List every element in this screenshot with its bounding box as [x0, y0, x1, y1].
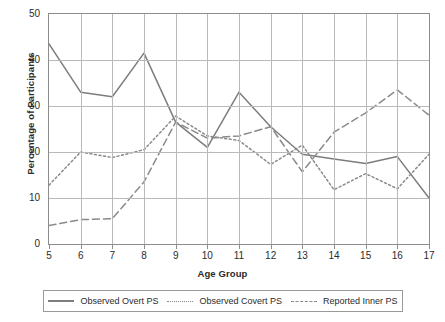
x-tick-label: 14 [322, 251, 346, 261]
x-tick-label: 7 [100, 251, 124, 261]
legend-swatch-solid-icon [48, 300, 74, 302]
x-tick-mark [144, 245, 145, 249]
legend-swatch-dashed-icon [291, 301, 317, 302]
x-tick-label: 17 [417, 251, 441, 261]
x-tick-label: 8 [132, 251, 156, 261]
x-tick-label: 9 [164, 251, 188, 261]
x-tick-mark [302, 245, 303, 249]
x-tick-label: 15 [354, 251, 378, 261]
x-tick-mark [271, 245, 272, 249]
x-tick-label: 12 [259, 251, 283, 261]
x-tick-label: 10 [195, 251, 219, 261]
x-tick-mark [112, 245, 113, 249]
x-tick-mark [429, 245, 430, 249]
x-tick-label: 13 [290, 251, 314, 261]
gridline-vertical [302, 14, 303, 244]
gridline-vertical [81, 14, 82, 244]
x-tick-label: 6 [69, 251, 93, 261]
x-tick-mark [239, 245, 240, 249]
legend-label: Observed Covert PS [199, 296, 282, 306]
x-tick-label: 11 [227, 251, 251, 261]
chart-legend: Observed Overt PS Observed Covert PS Rep… [43, 290, 403, 312]
x-tick-mark [366, 245, 367, 249]
chart-figure: Percentage of Participants 50403020100 5… [0, 0, 445, 322]
x-tick-mark [176, 245, 177, 249]
x-tick-mark [334, 245, 335, 249]
x-tick-mark [81, 245, 82, 249]
x-tick-mark [397, 245, 398, 249]
legend-label: Observed Overt PS [80, 296, 158, 306]
x-tick-mark [49, 245, 50, 249]
gridline-vertical [207, 14, 208, 244]
legend-swatch-dotted-icon [167, 301, 193, 302]
legend-item-observed-overt-ps: Observed Overt PS [48, 296, 158, 306]
gridline-vertical [239, 14, 240, 244]
gridline-vertical [176, 14, 177, 244]
gridline-vertical [334, 14, 335, 244]
gridline-vertical [144, 14, 145, 244]
gridline-vertical [397, 14, 398, 244]
x-tick-label: 16 [385, 251, 409, 261]
gridline-vertical [112, 14, 113, 244]
plot-area [48, 13, 430, 245]
x-tick-mark [207, 245, 208, 249]
x-tick-label: 5 [37, 251, 61, 261]
gridline-vertical [366, 14, 367, 244]
legend-label: Reported Inner PS [323, 296, 398, 306]
legend-item-observed-covert-ps: Observed Covert PS [167, 296, 282, 306]
x-axis-title: Age Group [0, 268, 445, 279]
legend-item-reported-inner-ps: Reported Inner PS [291, 296, 398, 306]
gridline-vertical [271, 14, 272, 244]
